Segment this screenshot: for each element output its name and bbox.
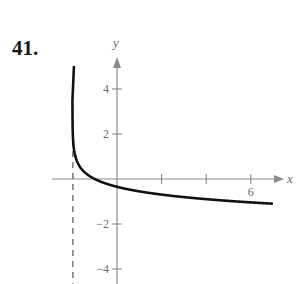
y-tick-label: −4 [96,262,109,276]
y-axis-arrow-icon [113,57,121,68]
log-function-graph: xy 642−2−4 [0,0,297,284]
y-tick-label: 2 [103,127,109,141]
x-axis-arrow-icon [274,175,284,183]
y-axis-label: y [111,35,119,50]
y-tick-label: −2 [96,217,109,231]
y-tick-label: 4 [103,82,109,96]
x-axis-label: x [286,171,293,186]
axes: xy [52,35,293,284]
x-tick-label: 6 [248,185,254,199]
